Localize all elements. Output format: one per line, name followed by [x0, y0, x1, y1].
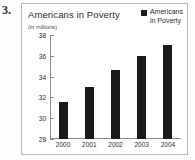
y-tick-mark [50, 77, 54, 78]
x-tick-label: 2001 [82, 141, 96, 148]
x-tick-label: 2002 [108, 141, 122, 148]
y-tick-label: 28 [39, 136, 46, 143]
x-tick-label: 2000 [56, 141, 70, 148]
y-tick-mark [50, 56, 54, 57]
y-axis-units-label: (in millions) [28, 24, 57, 30]
bar [137, 56, 146, 139]
x-tick-label: 2003 [134, 141, 148, 148]
chart-legend: Americans in Poverty [141, 8, 183, 25]
legend-swatch-icon [141, 10, 147, 16]
bar [85, 87, 94, 139]
legend-label-line2: in Poverty [150, 17, 183, 26]
poverty-chart-figure: 3. Americans in Poverty Americans in Pov… [0, 0, 195, 160]
y-tick-mark [50, 118, 54, 119]
plot-area: 383634323028 20002001200220032004 [50, 35, 181, 139]
x-tick-label: 2004 [161, 141, 175, 148]
y-tick-mark [50, 139, 54, 140]
bar [163, 45, 172, 139]
y-tick-label: 38 [39, 32, 46, 39]
chart-container: Americans in Poverty Americans in Povert… [21, 3, 188, 155]
y-tick-mark [50, 35, 54, 36]
legend-label-line1: Americans [150, 8, 183, 17]
question-number: 3. [2, 4, 11, 16]
bar [59, 102, 68, 139]
bar [111, 70, 120, 139]
y-tick-label: 32 [39, 94, 46, 101]
chart-title: Americans in Poverty [28, 9, 120, 20]
y-axis-line [50, 35, 51, 139]
y-tick-mark [50, 97, 54, 98]
y-tick-label: 30 [39, 115, 46, 122]
y-tick-label: 34 [39, 73, 46, 80]
legend-label: Americans in Poverty [150, 8, 183, 25]
y-tick-label: 36 [39, 52, 46, 59]
